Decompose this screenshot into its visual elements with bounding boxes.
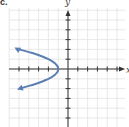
panel-label: c. [0,0,8,7]
x-axis-label: x [126,65,129,75]
y-axis-label: y [65,0,70,7]
parabola-graph [0,0,129,127]
